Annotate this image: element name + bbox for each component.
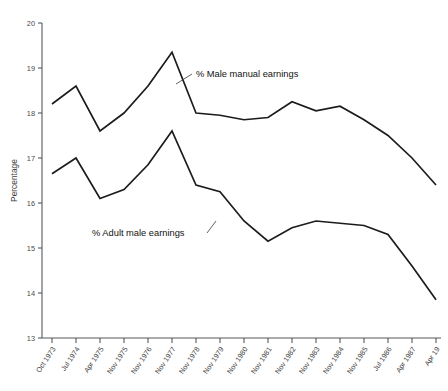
y-axis-tick-label: 18 [27, 109, 35, 118]
x-axis-tick-label: Apr 19 [422, 345, 441, 368]
x-axis-tick-label: Oct 1973 [34, 345, 58, 374]
x-axis-tick-label: Nov 1976 [129, 345, 154, 376]
series-annotation-label-1: % Male manual earnings [196, 69, 299, 79]
x-axis-tick-label: Nov 1982 [273, 345, 298, 376]
x-axis-tick-label: Apr 1975 [82, 345, 106, 374]
x-axis-tick-label: Nov 1979 [201, 345, 226, 376]
chart-container: 1314151617181920PercentageOct 1973Jul 19… [0, 0, 448, 391]
x-axis-tick-label: Nov 1978 [177, 345, 202, 376]
y-axis-tick-label: 17 [27, 154, 35, 163]
y-axis-tick-label: 13 [27, 334, 35, 343]
annotation-leader-2 [207, 221, 216, 233]
x-axis-tick-label: Nov 1983 [297, 345, 322, 376]
x-axis-tick-label: Nov 1980 [225, 345, 250, 376]
line-chart: 1314151617181920PercentageOct 1973Jul 19… [0, 0, 448, 391]
y-axis-tick-label: 16 [27, 199, 35, 208]
x-axis-tick-label: Apr 1987 [394, 345, 418, 374]
y-axis-tick-label: 19 [27, 64, 35, 73]
x-axis-tick-label: Nov 1985 [345, 345, 370, 376]
x-axis-tick-label: Nov 1977 [153, 345, 178, 376]
x-axis-tick-label: Nov 1984 [321, 345, 346, 376]
x-axis-tick-label: Nov 1975 [105, 345, 130, 376]
x-axis-tick-label: Nov 1981 [249, 345, 274, 376]
y-axis-tick-label: 20 [27, 19, 35, 28]
y-axis-tick-label: 15 [27, 244, 35, 253]
y-axis-title: Percentage [9, 159, 19, 202]
y-axis-tick-label: 14 [27, 289, 35, 298]
series-line-2 [52, 131, 436, 300]
x-axis-tick-label: Jul 1974 [59, 345, 82, 373]
x-axis-tick-label: Jul 1986 [371, 345, 394, 373]
series-annotation-label-2: % Adult male earnings [92, 228, 185, 238]
